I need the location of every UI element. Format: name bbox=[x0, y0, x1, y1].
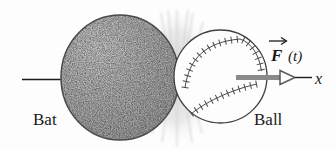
force-arrowhead bbox=[280, 71, 295, 85]
force-label: F bbox=[270, 46, 283, 65]
ball-label: Ball bbox=[254, 110, 283, 129]
bat-ball-collision-figure: Bat Ball F (t) x bbox=[0, 0, 335, 149]
force-arg-label: (t) bbox=[288, 48, 302, 65]
collision-diagram: Bat Ball F (t) x bbox=[0, 0, 335, 149]
vector-arrow-icon bbox=[269, 38, 287, 45]
bat-label: Bat bbox=[33, 110, 57, 129]
axis-label: x bbox=[314, 70, 322, 87]
